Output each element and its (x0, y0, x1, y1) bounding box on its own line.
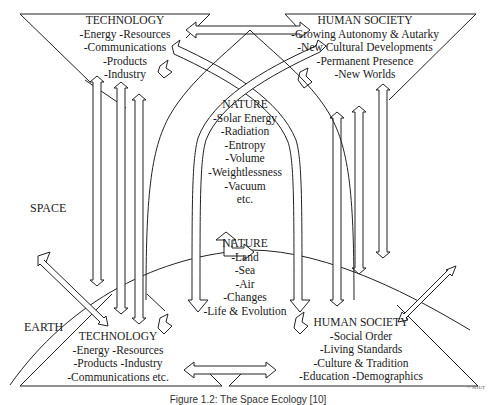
bottom-horizontal-arrow (184, 362, 276, 378)
copyright-mark: © SHUT (467, 385, 485, 390)
node-title: NATURE (190, 237, 300, 251)
node-line: -Products (70, 55, 180, 69)
nature-earth-node: NATURE -Land -Sea -Air -Changes -Life & … (190, 237, 300, 319)
right-vertical-arrow-1 (352, 106, 366, 274)
node-line: -Communications (70, 41, 180, 55)
space-region-label: SPACE (30, 201, 66, 216)
node-title: HUMAN SOCIETY (280, 14, 450, 28)
node-line: -Entropy (185, 139, 305, 153)
node-line: -Communications etc. (58, 371, 178, 385)
node-line: -Education -Demographics (296, 370, 426, 384)
node-line: -Energy -Resources (58, 344, 178, 358)
human-society-space-node: HUMAN SOCIETY -Growing Autonomy & Autark… (280, 14, 450, 82)
node-line: -Industry (70, 68, 180, 82)
node-line: -Volume (185, 152, 305, 166)
node-line: -Land (190, 251, 300, 265)
node-title: TECHNOLOGY (58, 330, 178, 344)
node-line: -Changes (190, 291, 300, 305)
right-vertical-arrow-3 (330, 112, 344, 306)
right-diagonal-arrow (398, 266, 456, 322)
node-line: -Vacuum (185, 180, 305, 194)
node-line: -New Cultural Developments (280, 41, 450, 55)
node-line: -Air (190, 278, 300, 292)
technology-space-node: TECHNOLOGY -Energy -Resources -Communica… (70, 14, 180, 82)
node-title: TECHNOLOGY (70, 14, 180, 28)
node-title: NATURE (185, 98, 305, 112)
left-vertical-arrow-1 (90, 76, 104, 286)
left-vertical-arrow-3 (132, 94, 146, 324)
node-line: -Products -Industry (58, 357, 178, 371)
human-society-earth-node: HUMAN SOCIETY -Social Order -Living Stan… (296, 316, 426, 384)
right-vertical-arrow-2 (376, 84, 390, 258)
node-line: -Radiation (185, 125, 305, 139)
left-vertical-arrow-2 (114, 82, 128, 314)
node-line: -New Worlds (280, 68, 450, 82)
node-line: etc. (185, 193, 305, 207)
node-line: -Life & Evolution (190, 305, 300, 319)
nature-space-node: NATURE -Solar Energy -Radiation -Entropy… (185, 98, 305, 207)
node-line: -Culture & Tradition (296, 357, 426, 371)
node-line: -Sea (190, 264, 300, 278)
figure-caption: Figure 1.2: The Space Ecology [10] (0, 394, 496, 405)
node-title: HUMAN SOCIETY (296, 316, 426, 330)
node-line: -Solar Energy (185, 112, 305, 126)
node-line: -Weightlessness (185, 166, 305, 180)
node-line: -Living Standards (296, 343, 426, 357)
node-line: -Growing Autonomy & Autarky (280, 28, 450, 42)
technology-earth-node: TECHNOLOGY -Energy -Resources -Products … (58, 330, 178, 384)
node-line: -Social Order (296, 330, 426, 344)
node-line: -Permanent Presence (280, 55, 450, 69)
node-line: -Energy -Resources (70, 28, 180, 42)
